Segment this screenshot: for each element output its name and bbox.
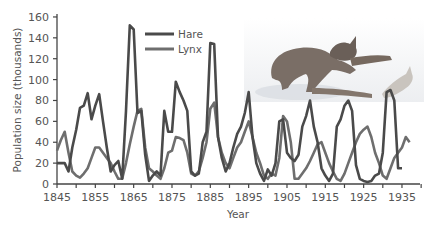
y-tick-label: 160: [28, 11, 49, 24]
y-tick-label: 40: [35, 136, 49, 149]
x-axis-title: Year: [226, 208, 250, 220]
legend-label-hare: Hare: [178, 28, 203, 40]
lynx-hare-illustration: [244, 18, 424, 102]
y-tick-label: 120: [28, 53, 49, 66]
y-tick-label: 60: [35, 115, 49, 128]
x-tick-label: 1855: [81, 191, 109, 204]
y-tick-label: 0: [42, 178, 49, 191]
y-tick-label: 140: [28, 32, 49, 45]
legend: Hare Lynx: [145, 28, 203, 55]
x-tick-label: 1915: [311, 191, 339, 204]
y-tick-label: 100: [28, 74, 49, 87]
y-tick-label: 20: [35, 157, 49, 170]
x-axis-ticks: 1845185518651875188518951905191519251935: [43, 184, 421, 204]
hare-lynx-population-chart: 020406080100120140160 184518551865187518…: [0, 0, 432, 232]
x-tick-label: 1875: [158, 191, 186, 204]
x-tick-label: 1895: [235, 191, 263, 204]
x-tick-label: 1865: [120, 191, 148, 204]
x-tick-label: 1845: [43, 191, 71, 204]
x-tick-label: 1925: [350, 191, 378, 204]
y-axis-title: Population size (thousands): [11, 28, 23, 173]
y-tick-label: 80: [35, 94, 49, 107]
x-tick-label: 1935: [388, 191, 416, 204]
y-axis-ticks: 020406080100120140160: [28, 11, 57, 191]
x-tick-label: 1885: [196, 191, 224, 204]
x-tick-label: 1905: [273, 191, 301, 204]
legend-label-lynx: Lynx: [178, 43, 202, 55]
